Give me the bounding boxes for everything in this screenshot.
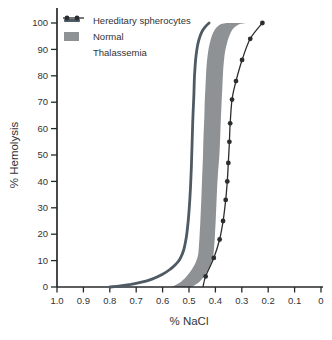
legend-label: Thalassemia [93, 46, 147, 59]
normal-band [172, 23, 246, 287]
thalassemia-marker [221, 219, 226, 224]
legend-label: Hereditary spherocytes [93, 14, 191, 27]
thalassemia-marker [225, 179, 230, 184]
thalassemia-marker [228, 121, 233, 126]
thalassemia-marker [230, 97, 235, 102]
thalassemia-marker [226, 161, 231, 166]
legend-label: Normal [93, 30, 124, 43]
x-tick-label: 0.3 [235, 295, 248, 306]
y-tick-label: 10 [37, 255, 48, 266]
y-tick-label: 40 [37, 176, 48, 187]
y-axis-title: % Hemolysis [8, 95, 20, 215]
x-tick-label: 0.7 [130, 295, 143, 306]
y-tick-label: 0 [43, 281, 48, 292]
y-tick-label: 70 [37, 96, 48, 107]
y-tick-label: 90 [37, 44, 48, 55]
hereditary-spherocytes-curve [110, 23, 209, 287]
thalassemia-marker [203, 274, 208, 279]
y-tick-label: 50 [37, 149, 48, 160]
thalassemia-marker [223, 197, 228, 202]
thalassemia-marker [260, 21, 265, 26]
y-tick-label: 100 [32, 17, 48, 28]
x-tick-label: 0.6 [156, 295, 169, 306]
x-axis-title: % NaCl [57, 315, 321, 327]
x-tick-label: 1.0 [50, 295, 63, 306]
band-swatch-icon [62, 32, 86, 41]
legend-item-thalassemia: Thalassemia [62, 46, 191, 59]
chart-legend: Hereditary spherocytes Normal Thalassemi… [62, 14, 191, 59]
x-tick-label: 0.8 [103, 295, 116, 306]
thalassemia-marker [234, 79, 239, 84]
y-tick-label: 80 [37, 70, 48, 81]
x-tick-label: 0.9 [77, 295, 90, 306]
legend-item-normal: Normal [62, 30, 191, 43]
thalassemia-marker [211, 256, 216, 261]
x-tick-label: 0.2 [262, 295, 275, 306]
y-tick-label: 20 [37, 228, 48, 239]
x-tick-label: 0.4 [209, 295, 222, 306]
thalassemia-marker [248, 36, 253, 41]
thalassemia-marker [240, 58, 245, 63]
thalassemia-marker [217, 237, 222, 242]
thalassemia-marker [227, 139, 232, 144]
x-tick-label: 0.5 [182, 295, 195, 306]
x-tick-label: 0.1 [288, 295, 301, 306]
y-tick-label: 60 [37, 123, 48, 134]
osmotic-fragility-chart: 1.00.90.80.70.60.50.40.30.20.10010203040… [0, 0, 332, 340]
y-tick-label: 30 [37, 202, 48, 213]
x-tick-label: 0 [318, 295, 323, 306]
